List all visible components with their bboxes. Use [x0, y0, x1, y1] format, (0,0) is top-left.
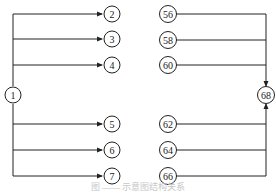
- node-6: 6: [104, 142, 120, 158]
- svg-text:64: 64: [163, 145, 173, 156]
- svg-text:68: 68: [261, 90, 271, 101]
- svg-text:5: 5: [110, 119, 115, 130]
- node-56: 56: [160, 6, 177, 23]
- node-2: 2: [104, 6, 120, 22]
- svg-text:3: 3: [110, 34, 115, 45]
- node-5: 5: [104, 116, 120, 132]
- svg-text:56: 56: [163, 9, 173, 20]
- svg-text:4: 4: [110, 60, 115, 71]
- svg-text:62: 62: [163, 119, 173, 130]
- node-62: 62: [160, 116, 177, 133]
- node-64: 64: [160, 142, 177, 159]
- node-4: 4: [104, 57, 120, 73]
- svg-text:6: 6: [110, 145, 115, 156]
- node-1: 1: [5, 87, 21, 103]
- node-68: 68: [258, 87, 275, 104]
- svg-text:58: 58: [163, 35, 173, 46]
- svg-text:60: 60: [163, 60, 173, 71]
- figure-caption: 图 —— 示意图结构关系: [0, 180, 276, 193]
- node-60: 60: [160, 57, 177, 74]
- node-3: 3: [104, 31, 120, 47]
- diagram-canvas: 1 2 3 4 5 6 7 56: [0, 0, 276, 193]
- svg-text:2: 2: [110, 9, 115, 20]
- svg-text:1: 1: [11, 90, 16, 101]
- node-58: 58: [160, 32, 177, 49]
